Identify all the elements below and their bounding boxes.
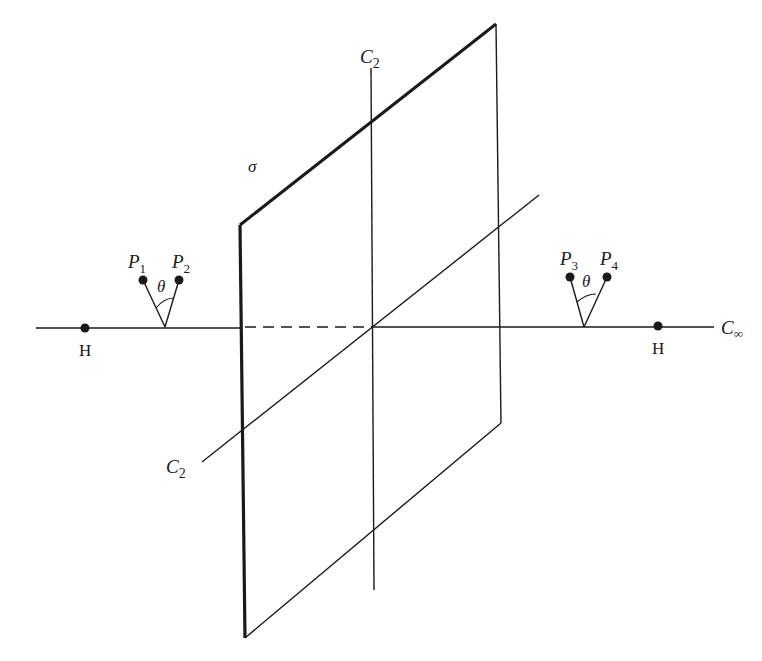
c2-diagonal-axis — [202, 195, 539, 462]
p3-point — [566, 273, 575, 282]
theta-right-label: θ — [582, 272, 590, 291]
h-right-label: H — [652, 339, 664, 358]
c-infinity-axis — [36, 327, 714, 328]
c-infinity-label: C∞ — [721, 317, 743, 341]
symmetry-diagram: σ C2 C2 C∞ P1 P2 θ P3 P4 θ H H — [0, 0, 762, 661]
p4-point — [603, 273, 612, 282]
p2-label: P2 — [171, 251, 190, 276]
p1-label: P1 — [127, 251, 146, 276]
c2-left-label: C2 — [166, 456, 186, 481]
h-point-right — [654, 322, 663, 331]
theta-arc-right — [577, 294, 596, 302]
c2-top-label: C2 — [360, 46, 380, 71]
plane-sigma — [240, 24, 501, 638]
p2-point — [175, 276, 184, 285]
c2-vertical-axis — [371, 68, 374, 590]
h-point-left — [81, 324, 90, 333]
p2-ray — [165, 280, 179, 327]
theta-left-label: θ — [157, 277, 165, 296]
p1-point — [139, 276, 148, 285]
sigma-label: σ — [248, 157, 257, 176]
h-left-label: H — [79, 341, 91, 360]
plane-right-edge — [496, 24, 501, 423]
p3-label: P3 — [559, 248, 578, 273]
p4-label: P4 — [599, 248, 619, 273]
